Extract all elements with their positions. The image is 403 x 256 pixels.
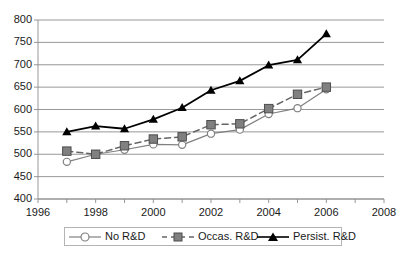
y-tick-label: 650	[2, 81, 32, 92]
x-tick-label: 2008	[364, 207, 403, 218]
legend-swatch-occas-rd	[161, 230, 195, 244]
x-axis-ticks	[38, 199, 384, 203]
legend-item-persist-rd[interactable]: Persist. R&D	[256, 228, 356, 245]
x-tick-label: 2006	[306, 207, 346, 218]
legend-swatch-persist-rd	[256, 230, 290, 244]
y-tick-label: 600	[2, 104, 32, 115]
x-tick-label: 2000	[133, 207, 173, 218]
x-tick-label: 1998	[76, 207, 116, 218]
y-tick-label: 450	[2, 171, 32, 182]
legend-item-occas-rd[interactable]: Occas. R&D	[161, 228, 259, 245]
x-tick-label: 1996	[18, 207, 58, 218]
y-tick-label: 700	[2, 59, 32, 70]
legend-swatch-no-rd	[68, 230, 102, 244]
x-tick-label: 2004	[249, 207, 289, 218]
legend-label-persist-rd: Persist. R&D	[293, 231, 356, 242]
y-tick-label: 400	[2, 193, 32, 204]
legend-label-no-rd: No R&D	[105, 231, 145, 242]
x-tick-label: 2002	[191, 207, 231, 218]
line-chart: 400450500550600650700750800 199619982000…	[0, 0, 403, 256]
legend: No R&D Occas. R&D Persist. R&D	[64, 227, 342, 246]
y-tick-label: 750	[2, 36, 32, 47]
gridlines	[38, 20, 384, 199]
data-series	[62, 29, 331, 165]
y-tick-label: 800	[2, 14, 32, 25]
legend-label-occas-rd: Occas. R&D	[198, 231, 259, 242]
y-tick-label: 500	[2, 148, 32, 159]
y-tick-label: 550	[2, 126, 32, 137]
legend-item-no-rd[interactable]: No R&D	[68, 228, 145, 245]
